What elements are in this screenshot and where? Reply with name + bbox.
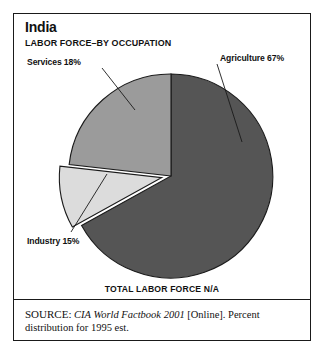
source-note: SOURCE: CIA World Factbook 2001 [Online]… bbox=[25, 308, 299, 334]
figure-frame: India LABOR FORCE–BY OCCUPATION Agricult… bbox=[13, 13, 311, 341]
source-panel: SOURCE: CIA World Factbook 2001 [Online]… bbox=[14, 300, 310, 340]
slice-label-industry: Industry 15% bbox=[27, 236, 80, 246]
total-labor-force-caption: TOTAL LABOR FORCE N/A bbox=[14, 284, 310, 294]
pie-slice-services[interactable] bbox=[69, 74, 171, 176]
source-work-title: CIA World Factbook 2001 bbox=[74, 309, 185, 320]
slice-label-services: Services 18% bbox=[27, 57, 81, 67]
slice-label-agriculture: Agriculture 67% bbox=[220, 53, 284, 63]
source-label: SOURCE: bbox=[25, 308, 71, 320]
chart-panel: India LABOR FORCE–BY OCCUPATION Agricult… bbox=[14, 14, 310, 300]
pie-chart: Agriculture 67% Services 18% Industry 15… bbox=[14, 14, 310, 300]
